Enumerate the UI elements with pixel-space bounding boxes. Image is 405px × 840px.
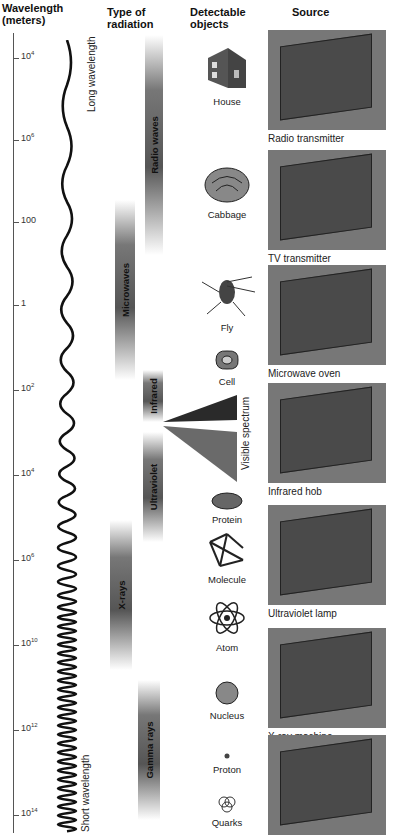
axis-tick [13,815,19,816]
source-radio-transmitter: Radio transmitter [268,30,403,144]
radiation-band-x-rays: X-rays [110,520,132,670]
radiation-band-label: X-rays [116,580,127,609]
object-label: Cell [187,376,267,387]
object-label: Atom [187,642,267,653]
axis-tick-label: 1012 [21,722,38,733]
protein-icon [210,490,244,510]
object-protein: Protein [187,490,267,525]
source-label: TV transmitter [268,253,403,264]
radiation-band-label: Ultraviolet [148,464,159,510]
source-x-ray-machine: X-ray machine [268,628,403,742]
source-label: Infrared hob [268,486,403,497]
wavelength-axis [13,33,14,833]
source-illustration [268,30,386,130]
object-proton: Proton [187,752,267,775]
axis-tick-label: 106 [21,132,34,143]
molecule-icon [205,530,249,570]
nucleus-icon [214,680,240,706]
fly-icon [197,262,257,318]
house-icon [204,40,250,92]
atom-icon [207,598,247,638]
proton-icon [223,752,231,760]
object-label: Fly [187,322,267,333]
object-label: Molecule [187,574,267,585]
cell-icon [212,348,242,372]
radiation-band-radio-waves: Radio waves [145,35,163,255]
axis-tick-label: 106 [21,552,34,563]
source-label: Microwave oven [268,368,403,379]
radiation-band-label: Infrared [148,378,159,413]
axis-tick-label: 1010 [21,637,38,648]
axis-tick-label: 102 [21,382,34,393]
source-nuclear-explosion [268,735,403,838]
axis-tick-label: 1 [21,297,26,308]
source-illustration [268,735,386,835]
axis-tick [13,58,19,59]
object-nucleus: Nucleus [187,680,267,721]
source-microwave-oven: Microwave oven [268,265,403,379]
object-cabbage: Cabbage [187,165,267,220]
object-label: House [187,96,267,107]
source-illustration [268,628,386,728]
axis-tick [13,730,19,731]
source-illustration [268,265,386,365]
axis-tick-label: 104 [21,50,34,61]
axis-tick [13,140,19,141]
visible-spectrum-wedge [160,390,240,485]
source-illustration [268,150,386,250]
source-illustration [268,383,386,483]
axis-tick [13,222,19,223]
object-atom: Atom [187,598,267,653]
wavelength-header: Wavelength (meters) [2,2,63,26]
axis-tick-label: 1014 [21,807,38,818]
long-wavelength-label: Long wavelength [86,36,97,112]
object-label: Cabbage [187,209,267,220]
visible-spectrum-label: Visible spectrum [240,397,251,470]
radiation-type-header: Type of radiation [107,6,153,30]
radiation-band-label: Gamma rays [144,721,155,778]
radiation-band-gamma-rays: Gamma rays [138,680,160,820]
quarks-icon [215,795,239,813]
cabbage-icon [202,165,252,205]
axis-tick [13,560,19,561]
source-header: Source [292,6,329,18]
object-cell: Cell [187,348,267,387]
source-tv-transmitter: TV transmitter [268,150,403,264]
radiation-band-label: Microwaves [120,263,131,317]
short-wavelength-label: Short wavelength [80,755,91,832]
object-label: Nucleus [187,710,267,721]
source-label: Radio transmitter [268,133,403,144]
axis-tick-label: 104 [21,467,34,478]
source-ultraviolet-lamp: Ultraviolet lamp [268,505,403,619]
object-molecule: Molecule [187,530,267,585]
object-house: House [187,40,267,107]
object-label: Protein [187,514,267,525]
axis-tick [13,390,19,391]
axis-tick-label: 100 [21,214,36,225]
radiation-band-label: Radio waves [149,116,160,174]
axis-tick [13,475,19,476]
object-label: Quarks [187,817,267,828]
radiation-band-microwaves: Microwaves [115,200,135,380]
source-label: Ultraviolet lamp [268,608,403,619]
object-label: Proton [187,764,267,775]
object-quarks: Quarks [187,795,267,828]
source-illustration [268,505,386,605]
object-fly: Fly [187,262,267,333]
wave-icon [55,40,85,840]
source-infrared-hob: Infrared hob [268,383,403,497]
axis-tick [13,645,19,646]
detectable-objects-header: Detectable objects [190,6,246,30]
axis-tick [13,305,19,306]
